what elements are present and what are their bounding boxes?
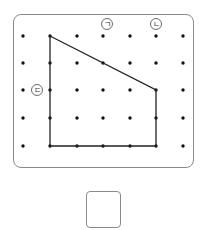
grid-dot xyxy=(128,88,131,91)
grid-dots xyxy=(21,34,184,147)
grid-dot xyxy=(21,61,24,64)
grid-dot xyxy=(75,61,78,64)
grid-dot xyxy=(181,61,184,64)
grid-dot xyxy=(154,34,157,37)
grid-dot xyxy=(154,61,157,64)
grid-dot xyxy=(21,144,24,147)
label-nieun: ㄴ xyxy=(151,19,162,30)
grid-dot xyxy=(101,88,104,91)
grid-dot xyxy=(21,34,24,37)
svg-text:ㄴ: ㄴ xyxy=(153,20,160,29)
grid-dot xyxy=(75,34,78,37)
grid-dot xyxy=(128,34,131,37)
svg-text:ㄷ: ㄷ xyxy=(34,86,41,95)
svg-text:ㄱ: ㄱ xyxy=(104,20,111,29)
label-giyeok: ㄱ xyxy=(102,19,113,30)
grid-dot xyxy=(101,116,104,119)
grid-dot xyxy=(181,34,184,37)
answer-input-box[interactable] xyxy=(86,191,121,228)
grid-dot xyxy=(75,88,78,91)
grid-dot xyxy=(181,88,184,91)
grid-dot xyxy=(21,116,24,119)
grid-dot xyxy=(181,144,184,147)
vertex-labels: ㄱㄴㄷ xyxy=(32,19,162,96)
label-digeut: ㄷ xyxy=(32,85,43,96)
grid-dot xyxy=(75,116,78,119)
grid-dot xyxy=(181,116,184,119)
grid-dot xyxy=(128,116,131,119)
grid-dot xyxy=(101,34,104,37)
grid-dot xyxy=(21,88,24,91)
grid-dot xyxy=(128,61,131,64)
